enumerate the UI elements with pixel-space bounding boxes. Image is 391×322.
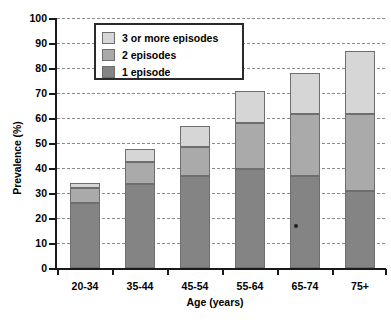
y-tick-label-30: 30 (17, 187, 47, 199)
y-tick-0 (49, 268, 55, 270)
bar-65-74[interactable] (290, 73, 320, 268)
y-tick-label-80: 80 (17, 62, 47, 74)
y-tick-20 (49, 218, 55, 220)
chart-figure: Prevalence (%) Age (years) 100 90 80 70 … (0, 0, 391, 322)
gridline-10 (57, 243, 385, 244)
bar-segment-55-64-2-episodes[interactable] (235, 123, 265, 169)
y-tick-30 (49, 193, 55, 195)
x-tick-2 (167, 269, 169, 275)
legend-swatch-2-episodes (102, 49, 115, 61)
x-tick-6 (385, 269, 387, 275)
y-tick-70 (49, 93, 55, 95)
gridline-20 (57, 218, 385, 219)
bar-segment-75+-1-episode[interactable] (345, 191, 375, 269)
bar-segment-45-54-2-episodes[interactable] (180, 147, 210, 176)
y-tick-label-70: 70 (17, 87, 47, 99)
bar-segment-65-74-1-episode[interactable] (290, 176, 320, 269)
legend-label-3-or-more-episodes: 3 or more episodes (122, 32, 218, 44)
bar-55-64[interactable] (235, 91, 265, 269)
bar-segment-35-44-2-episodes[interactable] (125, 162, 155, 185)
bar-segment-35-44-1-episode[interactable] (125, 184, 155, 268)
gridline-60 (57, 118, 385, 119)
x-tick-4 (277, 269, 279, 275)
bar-segment-55-64-3-or-more-episodes[interactable] (235, 91, 265, 124)
y-tick-50 (49, 143, 55, 145)
x-tick-0 (57, 269, 59, 275)
gridline-50 (57, 143, 385, 144)
legend-swatch-1-episode (102, 66, 115, 78)
x-tick-1 (112, 269, 114, 275)
scan-artifact-speck (294, 224, 298, 228)
bar-segment-20-34-2-episodes[interactable] (70, 188, 100, 203)
bar-45-54[interactable] (180, 126, 210, 269)
y-tick-label-100: 100 (17, 12, 47, 24)
bar-segment-45-54-1-episode[interactable] (180, 176, 210, 269)
legend-label-1-episode: 1 episode (122, 66, 170, 78)
bar-segment-35-44-3-or-more-episodes[interactable] (125, 149, 155, 162)
y-tick-label-0: 0 (17, 262, 47, 274)
x-axis-line (55, 268, 386, 270)
y-tick-label-50: 50 (17, 137, 47, 149)
legend: 3 or more episodes 2 episodes 1 episode (94, 23, 244, 80)
bar-segment-20-34-3-or-more-episodes[interactable] (70, 183, 100, 188)
bar-segment-75+-3-or-more-episodes[interactable] (345, 51, 375, 115)
bar-20-34[interactable] (70, 183, 100, 268)
bar-35-44[interactable] (125, 149, 155, 268)
bar-segment-75+-2-episodes[interactable] (345, 114, 375, 190)
y-tick-80 (49, 68, 55, 70)
bar-segment-65-74-3-or-more-episodes[interactable] (290, 73, 320, 114)
x-axis-title: Age (years) (45, 296, 385, 308)
y-tick-60 (49, 118, 55, 120)
gridline-30 (57, 193, 385, 194)
y-tick-label-10: 10 (17, 237, 47, 249)
y-tick-label-60: 60 (17, 112, 47, 124)
bar-segment-65-74-2-episodes[interactable] (290, 114, 320, 175)
bar-75plus[interactable] (345, 51, 375, 269)
y-tick-label-40: 40 (17, 162, 47, 174)
legend-item-1-episode[interactable]: 1 episode (102, 63, 236, 80)
bar-segment-55-64-1-episode[interactable] (235, 169, 265, 268)
legend-item-3-or-more-episodes[interactable]: 3 or more episodes (102, 29, 236, 46)
legend-label-2-episodes: 2 episodes (122, 49, 176, 61)
bar-segment-20-34-1-episode[interactable] (70, 203, 100, 268)
x-tick-3 (222, 269, 224, 275)
y-tick-label-90: 90 (17, 37, 47, 49)
legend-swatch-3-or-more-episodes (102, 32, 115, 44)
gridline-40 (57, 168, 385, 169)
x-tick-5 (332, 269, 334, 275)
bar-segment-45-54-3-or-more-episodes[interactable] (180, 126, 210, 147)
y-tick-10 (49, 243, 55, 245)
y-tick-100 (49, 18, 55, 20)
y-tick-label-20: 20 (17, 212, 47, 224)
y-tick-90 (49, 43, 55, 45)
x-tick-label-75plus: 75+ (328, 280, 391, 292)
gridline-70 (57, 93, 385, 94)
gridline-100 (57, 18, 385, 19)
y-tick-40 (49, 168, 55, 170)
legend-item-2-episodes[interactable]: 2 episodes (102, 46, 236, 63)
